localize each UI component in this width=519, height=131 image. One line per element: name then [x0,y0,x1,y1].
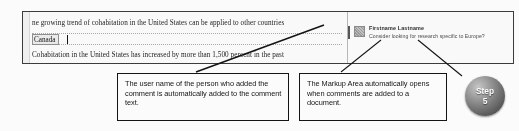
comment-balloon[interactable]: Firstname Lastname Consider looking for … [354,25,504,45]
user-avatar-placeholder-icon [354,26,365,37]
step-badge: Step 5 [465,76,505,116]
document-paragraph-line-1: ne growing trend of cohabitation in the … [32,19,284,28]
step-badge-number: 5 [483,97,488,105]
content-control-top-rule [32,33,342,34]
username-callout: The user name of the person who added th… [117,73,289,121]
comment-author-name: Firstname Lastname [369,25,424,31]
document-text-area[interactable]: ne growing trend of cohabitation in the … [32,12,348,63]
username-callout-text: The user name of the person who added th… [125,79,282,108]
country-field[interactable]: Canada [32,34,59,45]
text-caret [67,35,68,44]
screenshot-root: ne growing trend of cohabitation in the … [0,0,519,131]
markup-area-callout-text: The Markup Area automatically opens when… [307,79,440,108]
document-window: ne growing trend of cohabitation in the … [22,11,514,64]
markup-area-callout: The Markup Area automatically opens when… [299,73,447,121]
content-control-row[interactable]: Canada [32,33,342,45]
comment-anchor-bar [348,26,350,39]
comment-text: Consider looking for research specific t… [369,33,485,39]
page-left-edge [23,12,30,63]
content-control-bottom-rule [32,44,342,45]
step-badge-label: Step [476,87,494,95]
document-paragraph-line-2: Cohabitation in the United States has in… [32,51,284,60]
